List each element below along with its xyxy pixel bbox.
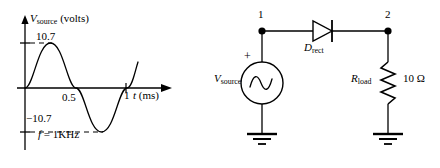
resistor-label: Rload (351, 73, 371, 84)
resistor-subscript: load (358, 77, 372, 86)
resistance-value-label: 10 Ω (403, 73, 425, 84)
source-subscript: source (221, 77, 242, 86)
frequency-value: = 1KHz (44, 128, 79, 140)
source-polarity-label: + (244, 50, 251, 62)
x-tick-label-half: 0.5 (62, 92, 76, 103)
y-axis-label: Vsource (volts) (30, 13, 89, 24)
diode-symbol-text: D (304, 41, 312, 53)
resistor-symbol (381, 62, 395, 104)
x-axis-label: t (ms) (133, 90, 159, 101)
resistor-symbol-text: R (351, 72, 358, 84)
figure-container: Vsource (volts) 10.7 −10.7 f = 1KHz 0.5 … (0, 0, 440, 168)
x-axis-symbol: t (133, 89, 136, 101)
diode-label: Drect (304, 42, 324, 53)
source-label: Vsource (214, 73, 241, 84)
frequency-symbol: f (38, 128, 41, 140)
x-tick-label-one: 1 (124, 90, 130, 101)
y-axis-symbol: V (30, 12, 37, 24)
frequency-label: f = 1KHz (38, 129, 79, 140)
node-label-2: 2 (385, 9, 391, 20)
circuit-schematic: 1 2 Drect Vsource + Rload 10 Ω (220, 0, 440, 168)
waveform-plot: Vsource (volts) 10.7 −10.7 f = 1KHz 0.5 … (0, 0, 220, 168)
ground-symbol-left (247, 134, 277, 144)
node-label-1: 1 (258, 9, 264, 20)
y-axis (21, 15, 28, 150)
diode-symbol (313, 20, 332, 42)
circuit-svg (220, 0, 440, 168)
ac-source-symbol (241, 62, 283, 104)
y-axis-subscript: source (37, 17, 58, 26)
trough-value-label: −10.7 (26, 113, 51, 124)
diode-subscript: rect (312, 46, 324, 55)
node-dot-1 (258, 27, 265, 34)
x-axis-units: (ms) (139, 89, 159, 101)
peak-value-label: 10.7 (36, 31, 55, 42)
waveform-svg (0, 0, 220, 168)
y-axis-units: (volts) (60, 12, 89, 24)
node-dot-2 (384, 27, 391, 34)
ground-symbol-right (373, 134, 403, 144)
source-symbol-text: V (214, 72, 221, 84)
